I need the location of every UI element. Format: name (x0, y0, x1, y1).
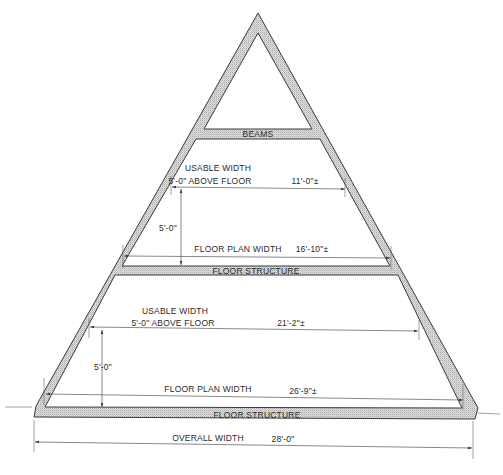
overall-width-label: OVERALL WIDTH (172, 433, 244, 443)
lower-usable-width-value: 21'-2"± (277, 318, 305, 328)
overall-width-dim (35, 442, 472, 448)
upper-floor-structure-label: FLOOR STRUCTURE (212, 266, 299, 276)
a-frame-structure (34, 13, 478, 419)
a-frame-section-diagram: BEAMS USABLE WIDTH 5'-0" ABOVE FLOOR 11'… (0, 0, 503, 475)
upper-height-value: 5'-0" (159, 223, 177, 233)
upper-floor-plan-dim (124, 256, 390, 258)
upper-floor-plan-width-label: FLOOR PLAN WIDTH (194, 244, 281, 254)
lower-usable-width-label-1: USABLE WIDTH (142, 306, 208, 316)
lower-floor-plan-width-value: 26'-9"± (289, 386, 317, 396)
lower-height-value: 5'-0" (94, 362, 112, 372)
lower-floor-plan-width-label: FLOOR PLAN WIDTH (164, 384, 251, 394)
upper-usable-width-label-1: USABLE WIDTH (185, 163, 251, 173)
lower-usable-width-label-2: 5'-0" ABOVE FLOOR (131, 318, 214, 328)
lower-floor-plan-dim (46, 394, 463, 400)
upper-usable-width-dim (172, 187, 345, 189)
upper-usable-width-label-2: 5'-0" ABOVE FLOOR (168, 176, 251, 186)
beams-label: BEAMS (243, 129, 274, 139)
lower-usable-width-dim (90, 327, 418, 331)
upper-floor-plan-width-value: 16'-10"± (296, 244, 329, 254)
lower-floor-structure-label: FLOOR STRUCTURE (213, 410, 300, 420)
overall-width-value: 28'-0" (272, 434, 295, 444)
ground-line-right (478, 413, 500, 414)
upper-usable-width-value: 11'-0"± (291, 176, 318, 186)
